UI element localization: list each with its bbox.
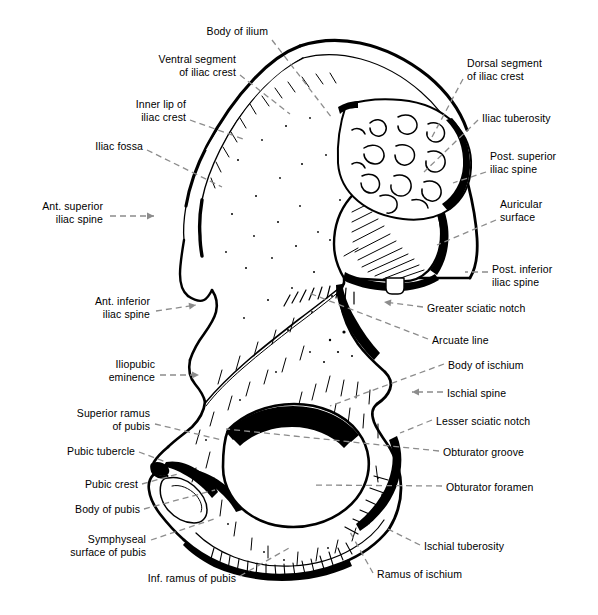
label-dorsal-segment-iliac-crest-line-2: of iliac crest — [467, 70, 542, 83]
label-obturator-groove: Obturator groove — [443, 446, 524, 459]
label-post-superior-iliac-spine-line-1: Post. superior — [490, 150, 556, 163]
label-iliac-tuberosity: Iliac tuberosity — [482, 112, 551, 125]
label-arcuate-line-line-1: Arcuate line — [432, 334, 489, 347]
label-symphyseal-surface-of-pubis: Symphysealsurface of pubis — [70, 533, 146, 558]
label-superior-ramus-of-pubis-line-1: Superior ramus — [77, 407, 150, 420]
label-post-inferior-iliac-spine-line-1: Post. inferior — [492, 263, 552, 276]
label-ventral-segment-iliac-crest: Ventral segmentof iliac crest — [159, 53, 236, 78]
label-body-of-pubis: Body of pubis — [75, 503, 140, 516]
label-iliopubic-eminence-line-2: eminence — [109, 371, 155, 384]
label-ischial-spine: Ischial spine — [447, 387, 506, 400]
label-inner-lip-of-iliac-crest-line-1: Inner lip of — [136, 98, 186, 111]
label-pubic-crest: Pubic crest — [85, 478, 138, 491]
label-iliopubic-eminence: Iliopubiceminence — [109, 358, 155, 383]
label-pubic-crest-line-1: Pubic crest — [85, 478, 138, 491]
label-ant-inferior-iliac-spine-line-1: Ant. inferior — [95, 295, 150, 308]
label-inf-ramus-of-pubis: Inf. ramus of pubis — [148, 572, 236, 585]
label-ant-superior-iliac-spine-line-1: Ant. superior — [42, 200, 103, 213]
label-ventral-segment-iliac-crest-line-2: of iliac crest — [159, 66, 236, 79]
label-post-inferior-iliac-spine-line-2: iliac spine — [492, 276, 552, 289]
label-greater-sciatic-notch-line-1: Greater sciatic notch — [427, 302, 525, 315]
label-ant-inferior-iliac-spine-line-2: iliac spine — [95, 308, 150, 321]
label-ant-superior-iliac-spine-line-2: iliac spine — [42, 213, 103, 226]
label-ischial-tuberosity-line-1: Ischial tuberosity — [424, 540, 504, 553]
label-ant-superior-iliac-spine: Ant. superioriliac spine — [42, 200, 103, 225]
label-greater-sciatic-notch: Greater sciatic notch — [427, 302, 525, 315]
label-body-of-pubis-line-1: Body of pubis — [75, 503, 140, 516]
label-body-of-ischium-line-1: Body of ischium — [448, 359, 524, 372]
label-ischial-spine-line-1: Ischial spine — [447, 387, 506, 400]
label-body-of-ilium-line-1: Body of ilium — [207, 25, 268, 38]
label-auricular-surface-line-2: surface — [500, 211, 542, 224]
label-ischial-tuberosity: Ischial tuberosity — [424, 540, 504, 553]
label-inner-lip-of-iliac-crest: Inner lip ofiliac crest — [136, 98, 186, 123]
label-auricular-surface: Auricularsurface — [500, 198, 542, 223]
label-ventral-segment-iliac-crest-line-1: Ventral segment — [159, 53, 236, 66]
label-pubic-tubercle: Pubic tubercle — [67, 445, 135, 458]
label-pubic-tubercle-line-1: Pubic tubercle — [67, 445, 135, 458]
label-lesser-sciatic-notch: Lesser sciatic notch — [436, 415, 530, 428]
label-iliac-fossa: Iliac fossa — [95, 140, 143, 153]
label-obturator-groove-line-1: Obturator groove — [443, 446, 524, 459]
label-post-superior-iliac-spine: Post. superioriliac spine — [490, 150, 556, 175]
label-symphyseal-surface-of-pubis-line-2: surface of pubis — [70, 546, 146, 559]
label-symphyseal-surface-of-pubis-line-1: Symphyseal — [70, 533, 146, 546]
label-iliopubic-eminence-line-1: Iliopubic — [109, 358, 155, 371]
label-inf-ramus-of-pubis-line-1: Inf. ramus of pubis — [148, 572, 236, 585]
label-inner-lip-of-iliac-crest-line-2: iliac crest — [136, 111, 186, 124]
label-ant-inferior-iliac-spine: Ant. inferioriliac spine — [95, 295, 150, 320]
label-auricular-surface-line-1: Auricular — [500, 198, 542, 211]
label-body-of-ischium: Body of ischium — [448, 359, 524, 372]
label-dorsal-segment-iliac-crest-line-1: Dorsal segment — [467, 57, 542, 70]
label-lesser-sciatic-notch-line-1: Lesser sciatic notch — [436, 415, 530, 428]
label-superior-ramus-of-pubis: Superior ramusof pubis — [77, 407, 150, 432]
label-obturator-foramen: Obturator foramen — [446, 481, 534, 494]
label-superior-ramus-of-pubis-line-2: of pubis — [77, 420, 150, 433]
label-post-superior-iliac-spine-line-2: iliac spine — [490, 163, 556, 176]
label-body-of-ilium: Body of ilium — [207, 25, 268, 38]
anatomical-figure: Body of iliumVentral segmentof iliac cre… — [0, 0, 598, 615]
label-iliac-fossa-line-1: Iliac fossa — [95, 140, 143, 153]
label-ramus-of-ischium: Ramus of ischium — [377, 568, 462, 581]
label-ramus-of-ischium-line-1: Ramus of ischium — [377, 568, 462, 581]
label-arcuate-line: Arcuate line — [432, 334, 489, 347]
label-dorsal-segment-iliac-crest: Dorsal segmentof iliac crest — [467, 57, 542, 82]
label-obturator-foramen-line-1: Obturator foramen — [446, 481, 534, 494]
label-iliac-tuberosity-line-1: Iliac tuberosity — [482, 112, 551, 125]
label-post-inferior-iliac-spine: Post. inferioriliac spine — [492, 263, 552, 288]
